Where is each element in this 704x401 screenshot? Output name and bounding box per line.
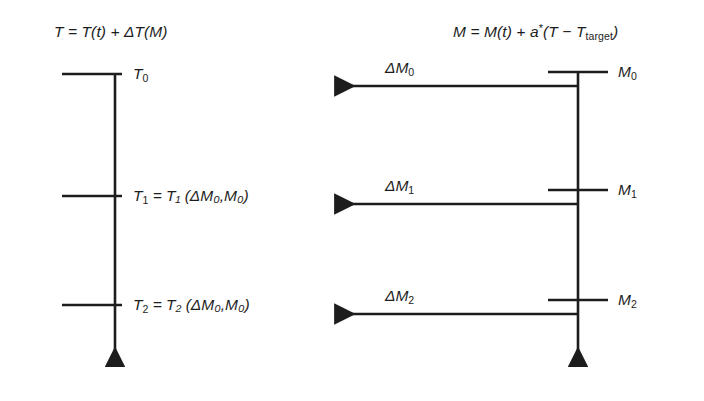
left-eq-term2: ΔT(M) [124, 23, 168, 40]
dm2-subscript: 2 [408, 294, 414, 306]
left-eq-equals: = [64, 23, 82, 40]
m2-subscript: 2 [631, 298, 637, 310]
dm0-subscript: 0 [408, 66, 414, 78]
m0-subscript: 0 [631, 70, 637, 82]
left-equation-header: T = T(t) + ΔT(M) [54, 24, 168, 40]
coupling-arrows-group [335, 86, 578, 314]
right-equation-header: M = M(t) + a*(T − Ttarget) [453, 24, 618, 40]
right-eq-lhs: M [453, 23, 466, 40]
left-tick-label-t2: T2 = T₂ (ΔM₀,M₀) [133, 297, 250, 313]
right-eq-coefficient: a [530, 23, 539, 40]
right-tick-label-m0: M0 [618, 64, 637, 80]
right-axis-group [548, 72, 608, 366]
right-eq-plus: + [512, 23, 530, 40]
right-eq-minus: − [558, 23, 576, 40]
diagram-canvas: T = T(t) + ΔT(M) M = M(t) + a*(T − Ttarg… [0, 0, 704, 401]
right-tick-label-m2: M2 [618, 292, 637, 308]
right-eq-equals: = [466, 23, 484, 40]
t2-rest: = T₂ (ΔM₀,M₀) [148, 296, 249, 313]
right-eq-target-subscript: target [585, 30, 613, 42]
right-eq-term1: M(t) [484, 23, 512, 40]
dm2-base: ΔM [385, 287, 408, 304]
dm1-subscript: 1 [408, 184, 414, 196]
left-eq-lhs: T [54, 23, 64, 40]
left-tick-label-t1: T1 = T₁ (ΔM₀,M₀) [133, 188, 249, 204]
right-tick-label-m1: M1 [618, 182, 637, 198]
dm0-base: ΔM [385, 59, 408, 76]
left-eq-term1: T(t) [82, 23, 107, 40]
right-eq-close-paren: ) [613, 23, 618, 40]
left-axis-group [62, 74, 122, 366]
coupling-label-dm0: ΔM0 [385, 60, 414, 76]
m0-base: M [618, 63, 631, 80]
t0-subscript: 0 [142, 72, 148, 84]
left-eq-plus: + [106, 23, 124, 40]
m1-base: M [618, 181, 631, 198]
m2-base: M [618, 291, 631, 308]
diagram-graphics [0, 0, 704, 401]
coupling-label-dm2: ΔM2 [385, 288, 414, 304]
right-eq-var-t: T [548, 23, 558, 40]
dm1-base: ΔM [385, 177, 408, 194]
coupling-label-dm1: ΔM1 [385, 178, 414, 194]
t1-rest: = T₁ (ΔM₀,M₀) [148, 187, 248, 204]
m1-subscript: 1 [631, 188, 637, 200]
left-tick-label-t0: T0 [133, 66, 148, 82]
